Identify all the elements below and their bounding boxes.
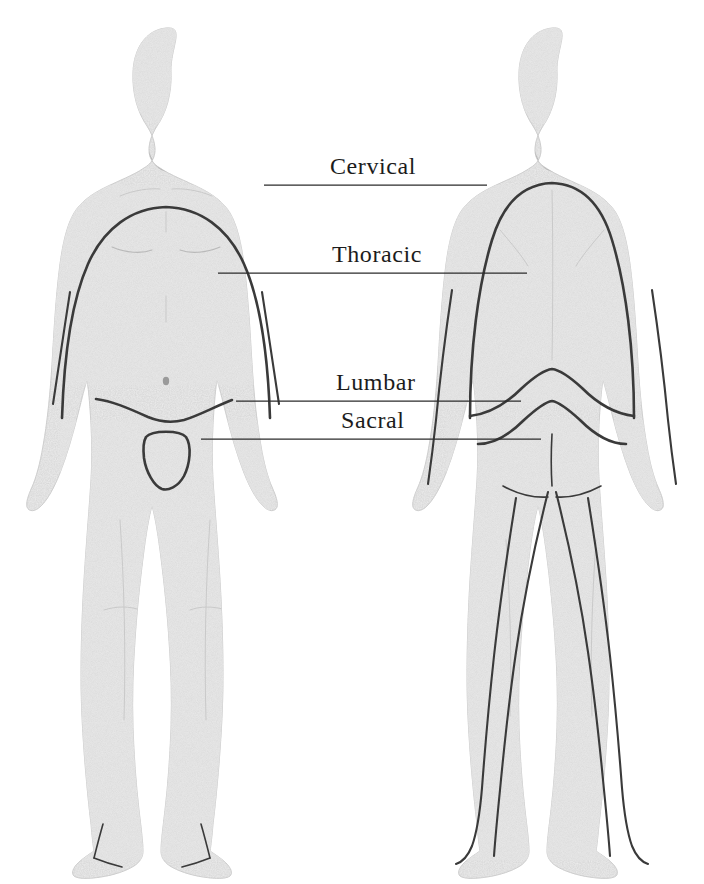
label-sacral: Sacral bbox=[341, 407, 405, 433]
anterior-figure bbox=[27, 25, 280, 878]
posterior-figure bbox=[413, 25, 676, 878]
anterior-shading bbox=[52, 25, 280, 860]
region-labels: Cervical Thoracic Lumbar Sacral bbox=[330, 153, 422, 433]
diagram-canvas: Cervical Thoracic Lumbar Sacral bbox=[0, 0, 704, 884]
natal-cleft bbox=[551, 434, 552, 486]
cervical-arm-line-right-posterior bbox=[652, 290, 676, 484]
navel bbox=[163, 377, 169, 385]
dermatome-diagram: Cervical Thoracic Lumbar Sacral bbox=[0, 0, 704, 884]
label-cervical: Cervical bbox=[330, 153, 416, 179]
label-lumbar: Lumbar bbox=[336, 369, 416, 395]
label-thoracic: Thoracic bbox=[332, 241, 422, 267]
